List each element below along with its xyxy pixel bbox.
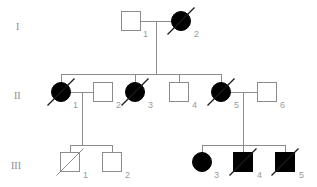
- generation-label-iii: III: [11, 160, 21, 171]
- individual-iii-3[interactable]: [193, 153, 212, 172]
- individual-ii-5[interactable]: [208, 79, 235, 106]
- individual-number-iii-4: 4: [257, 170, 262, 180]
- individual-number-iii-5: 5: [299, 170, 304, 180]
- individual-iii-1[interactable]: [57, 149, 84, 176]
- individual-number-ii-6: 6: [280, 100, 285, 110]
- individual-ii-6[interactable]: [258, 83, 277, 102]
- individual-number-ii-2: 2: [116, 100, 121, 110]
- individual-number-iii-3: 3: [214, 170, 219, 180]
- individual-iii-5[interactable]: [272, 149, 299, 176]
- pedigree-canvas: IIIIII1212345612345: [0, 0, 317, 187]
- open-square-icon: [103, 153, 122, 172]
- individual-number-iii-2: 2: [125, 170, 130, 180]
- open-square-icon: [122, 12, 141, 31]
- individual-iii-4[interactable]: [230, 149, 257, 176]
- individual-iii-2[interactable]: [103, 153, 122, 172]
- individual-number-ii-5: 5: [234, 100, 239, 110]
- individual-number-iii-1: 1: [83, 170, 88, 180]
- individual-number-ii-4: 4: [192, 100, 197, 110]
- individual-number-ii-1: 1: [73, 100, 78, 110]
- open-square-icon: [170, 83, 189, 102]
- filled-circle-icon: [193, 153, 212, 172]
- individual-number-i-1: 1: [143, 29, 148, 39]
- pedigree-chart: IIIIII1212345612345: [0, 0, 317, 187]
- generation-label-i: I: [16, 21, 19, 32]
- individual-i-1[interactable]: [122, 12, 141, 31]
- open-square-icon: [94, 83, 113, 102]
- individual-ii-4[interactable]: [170, 83, 189, 102]
- individual-number-i-2: 2: [194, 29, 199, 39]
- individual-ii-1[interactable]: [48, 79, 75, 106]
- individual-number-ii-3: 3: [148, 100, 153, 110]
- open-square-icon: [258, 83, 277, 102]
- individual-ii-2[interactable]: [94, 83, 113, 102]
- individual-i-2[interactable]: [168, 8, 195, 35]
- generation-label-ii: II: [14, 90, 21, 101]
- individual-ii-3[interactable]: [122, 79, 149, 106]
